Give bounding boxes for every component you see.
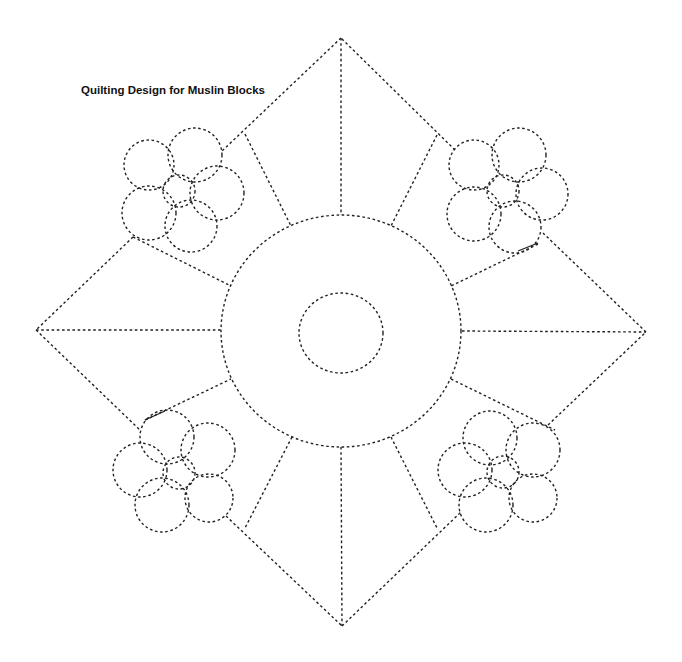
- flower-petal: [124, 140, 174, 190]
- center-circle: [221, 215, 461, 447]
- spoke-line: [133, 237, 231, 286]
- spoke-line: [341, 447, 342, 626]
- spoke-line: [451, 244, 538, 286]
- flower-petal: [165, 200, 217, 252]
- flower-center: [163, 457, 195, 489]
- flower-petal: [181, 423, 235, 477]
- flower-petal: [516, 168, 568, 220]
- outline-edge: [543, 233, 646, 332]
- flower-center: [487, 175, 519, 207]
- flower-bottom-right: [438, 411, 560, 532]
- flower-petal: [509, 474, 557, 522]
- flower-petal: [463, 411, 517, 465]
- spoke-line: [451, 379, 555, 430]
- flower-bottom-left: [113, 410, 235, 532]
- flower-petal: [449, 140, 499, 190]
- outline-edge: [36, 237, 133, 330]
- spoke-line: [462, 331, 646, 332]
- flower-petal: [140, 410, 194, 464]
- quilt-pattern-diagram: [0, 0, 682, 662]
- spoke-line: [245, 134, 291, 226]
- flower-petal: [113, 443, 167, 497]
- flower-motifs: [113, 128, 568, 532]
- flower-petal: [185, 474, 233, 522]
- spoke-line: [245, 437, 292, 528]
- outline-edge: [222, 38, 341, 151]
- outline-edge: [342, 512, 461, 626]
- outline-edge: [226, 516, 342, 626]
- outline-edge: [548, 332, 646, 425]
- flower-top-right: [447, 128, 568, 253]
- spoke-line: [391, 437, 438, 530]
- flower-petal: [190, 166, 244, 220]
- spoke-line: [391, 135, 437, 226]
- outline-edge: [36, 330, 141, 431]
- inner-circle: [299, 293, 383, 373]
- outline-edge: [341, 38, 455, 150]
- flower-petal: [492, 128, 546, 182]
- radial-spokes: [36, 38, 646, 626]
- flower-petal: [168, 128, 222, 182]
- flower-petal: [438, 443, 492, 497]
